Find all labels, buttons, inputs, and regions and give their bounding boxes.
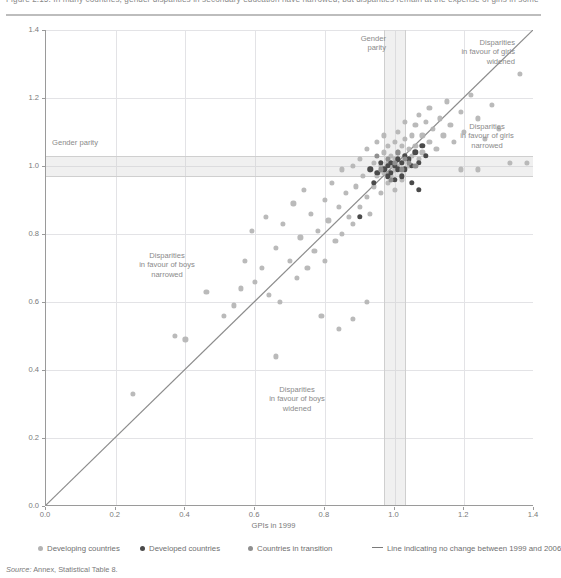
annotation-gender-parity-horizontal: Gender parity [52, 138, 142, 147]
reference-line [46, 30, 533, 505]
chart-container: GPIs in 2006 0.00.20.40.60.81.01.21.4 0.… [0, 0, 547, 530]
legend-line-icon [372, 547, 383, 548]
y-tick-label: 1.0 [3, 161, 39, 170]
legend-label: Line indicating no change between 1999 a… [387, 544, 561, 553]
legend-dot-icon [38, 546, 43, 551]
x-tick-mark [463, 507, 464, 510]
x-tick-mark [324, 507, 325, 510]
x-tick-label: 0.6 [234, 510, 274, 519]
legend-label: Developed countries [149, 544, 220, 553]
annotation-girls-narrowed: Disparities in favour of girls narrowed [445, 122, 529, 150]
x-tick-label: 1.4 [513, 510, 553, 519]
plot-area: Disparities in favour of girls widened D… [45, 30, 533, 506]
x-tick-mark [184, 507, 185, 510]
annotation-girls-widened: Disparities in favour of girls widened [429, 38, 515, 66]
x-tick-label: 0.0 [25, 510, 65, 519]
x-tick-label: 0.4 [164, 510, 204, 519]
annotation-boys-narrowed: Disparities in favour of boys narrowed [124, 251, 210, 279]
x-tick-label: 0.8 [304, 510, 344, 519]
x-tick-mark [394, 507, 395, 510]
legend-label: Countries in transition [257, 544, 332, 553]
y-tick-label: 1.2 [3, 93, 39, 102]
annotation-boys-widened: Disparities in favour of boys widened [254, 385, 340, 413]
x-axis-label: GPIs in 1999 [0, 521, 547, 530]
y-tick-label: 1.4 [3, 25, 39, 34]
x-tick-label: 1.2 [443, 510, 483, 519]
x-tick-mark [254, 507, 255, 510]
x-tick-label: 0.2 [95, 510, 135, 519]
y-tick-label: 0.0 [3, 501, 39, 510]
x-tick-mark [45, 507, 46, 510]
source-note: Source: Annex, Statistical Table 8. [6, 565, 118, 574]
legend-dot-icon [248, 546, 253, 551]
y-tick-label: 0.6 [3, 297, 39, 306]
annotation-gender-parity-vertical: Gender parity [334, 34, 386, 53]
y-tick-label: 0.4 [3, 365, 39, 374]
legend-dot-icon [140, 546, 145, 551]
chart-legend: Developing countriesDeveloped countriesC… [0, 540, 547, 556]
x-tick-label: 1.0 [374, 510, 414, 519]
legend-item-reference[interactable]: Line indicating no change between 1999 a… [372, 544, 561, 553]
legend-item-developed[interactable]: Developed countries [140, 544, 220, 553]
legend-item-transition[interactable]: Countries in transition [248, 544, 332, 553]
y-tick-label: 0.2 [3, 433, 39, 442]
source-label: Source: [6, 565, 31, 574]
legend-item-developing[interactable]: Developing countries [38, 544, 120, 553]
x-tick-mark [533, 507, 534, 510]
source-text: Annex, Statistical Table 8. [31, 565, 117, 574]
x-tick-mark [115, 507, 116, 510]
y-tick-label: 0.8 [3, 229, 39, 238]
legend-label: Developing countries [47, 544, 120, 553]
